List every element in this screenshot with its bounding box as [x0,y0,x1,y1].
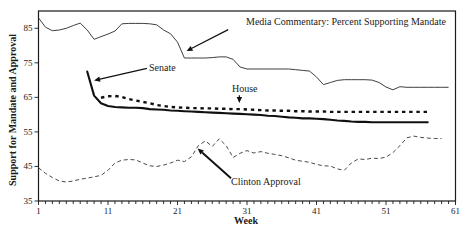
y-axis-title: Support for Mandate and Approval [7,34,18,186]
annotation-arrow-media [192,30,228,49]
annotation-media-commentary: Media Commentary: Percent Supporting Man… [246,16,446,27]
annotation-senate: Senate [149,62,176,73]
y-tick-label: 65 [24,92,34,102]
x-tick-label: 41 [312,206,321,216]
x-tick-label: 1 [36,206,41,216]
y-tick-label: 45 [24,161,34,171]
annotation-house: House [232,83,258,94]
chart-canvas: 8575655545351112131415161 [0,0,469,239]
annotation-arrowhead-house [237,97,242,103]
y-tick-label: 55 [24,127,34,137]
annotation-arrow-clinton [202,152,231,178]
x-tick-label: 51 [382,206,391,216]
y-tick-label: 85 [24,23,34,33]
plot-frame [39,11,456,201]
x-tick-label: 11 [104,206,113,216]
y-tick-label: 35 [24,196,34,206]
x-tick-label: 61 [451,206,460,216]
annotation-arrowhead-senate [94,76,100,81]
line-chart-figure: 8575655545351112131415161 Support for Ma… [0,0,469,239]
annotation-arrow-senate [100,68,147,79]
series-line-senate [87,72,428,123]
y-tick-label: 75 [24,58,34,68]
annotation-clinton-approval: Clinton Approval [231,176,301,187]
x-axis-title: Week [234,215,258,226]
x-tick-label: 21 [173,206,182,216]
